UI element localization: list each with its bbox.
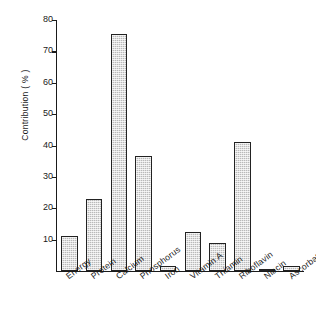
y-tick-label: 50 <box>43 108 53 119</box>
y-tick-label: 30 <box>43 171 53 182</box>
x-axis-tick-labels: EnergyProteinCalciumPhosphorusIronVitami… <box>56 273 316 327</box>
plot-area: 1020304050607080 <box>56 20 304 272</box>
y-tick-label: 40 <box>43 140 53 151</box>
y-tick-label: 60 <box>43 77 53 88</box>
y-tick-label: 70 <box>43 45 53 56</box>
y-tick-label: 10 <box>43 234 53 245</box>
bar <box>234 142 251 271</box>
bar <box>111 34 128 271</box>
y-axis-title: Contribution ( % ) <box>20 30 30 180</box>
bar-chart-figure: Contribution ( % ) 1020304050607080 Ener… <box>0 0 316 327</box>
y-tick-label: 80 <box>43 14 53 25</box>
y-tick-label: 20 <box>43 202 53 213</box>
bars-group <box>57 20 304 271</box>
